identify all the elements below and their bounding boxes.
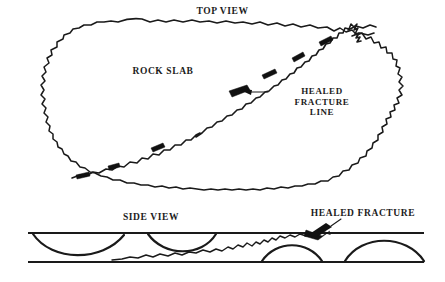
side-scallop-down-2	[148, 234, 216, 251]
side-scallop-up-2	[345, 241, 424, 261]
side-scallop-down-1	[33, 234, 124, 255]
label-top-view: TOP VIEW	[0, 6, 445, 17]
figure-drawing	[0, 0, 445, 282]
side-scallop-up-1	[262, 245, 322, 261]
callout-arrow-side	[308, 223, 332, 237]
callout-leader-side	[331, 219, 341, 226]
label-healed-fracture-line: HEALED FRACTURE LINE	[272, 86, 372, 118]
fracture-thick-segment-5	[262, 69, 277, 79]
fracture-thick-segment-4	[76, 172, 90, 179]
label-side-view: SIDE VIEW	[86, 212, 216, 223]
figure-root: TOP VIEW ROCK SLAB HEALED FRACTURE LINE …	[0, 0, 445, 282]
fracture-thick-segment-6	[292, 52, 305, 62]
label-rock-slab: ROCK SLAB	[108, 66, 218, 77]
label-healed-fracture-side: HEALED FRACTURE	[288, 208, 438, 219]
